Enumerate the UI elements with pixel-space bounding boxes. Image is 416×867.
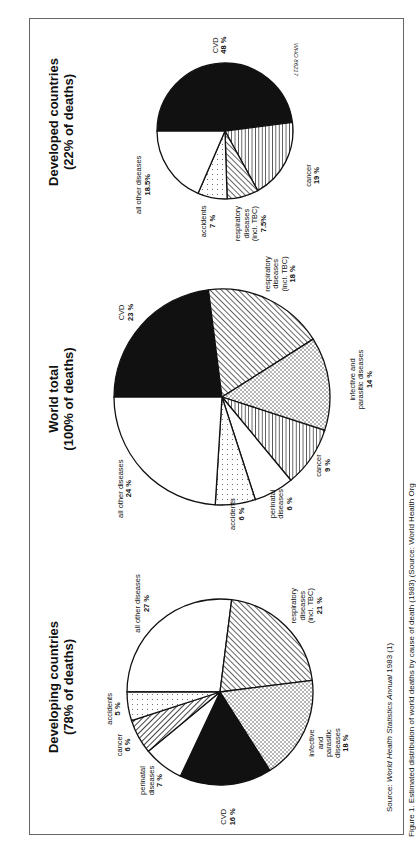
developing-pct-cancer: 6 % xyxy=(123,738,132,751)
developing-pct-acc: 5 % xyxy=(113,702,122,715)
developed-pct-cvd: 48 % xyxy=(219,36,228,53)
world-pct-inf: 14 % xyxy=(365,371,374,388)
developing-title: Developing countries xyxy=(46,621,61,753)
developing-pct-inf: 18 % xyxy=(341,734,350,751)
developing-label-resp: respiratorydiseases(incl. TBC)21 % xyxy=(289,588,324,624)
figure-page: Developing countries (78% of deaths) Wor… xyxy=(0,0,416,867)
developing-label-cvd: CVD16 % xyxy=(219,808,237,825)
source-suffix: 1983 (1) xyxy=(385,643,394,675)
world-label-other: all other diseases24 % xyxy=(116,459,134,518)
world-pct-other: 24 % xyxy=(124,480,133,497)
developed-pct-resp: 7.5% xyxy=(259,215,268,232)
developing-pct-other: 27 % xyxy=(142,595,151,612)
world-label-peri: perinataldiseases6 % xyxy=(268,489,294,519)
developed-pct-cancer: 19 % xyxy=(312,167,321,184)
who-code: WHO 86217 xyxy=(293,43,299,77)
world-pct-resp: 18 % xyxy=(288,265,297,282)
developed-pct-other: 18.5% xyxy=(143,174,152,196)
developing-slice-other xyxy=(127,599,232,692)
developing-label-inf: infectiveandparasiticdiseases18 % xyxy=(307,728,350,758)
developing-label-other: all other diseases27 % xyxy=(133,574,151,633)
world-pct-cvd: 23 % xyxy=(126,304,135,321)
world-subtitle: (100% of deaths) xyxy=(61,347,76,450)
source-title: World Health Statistics Annual xyxy=(385,675,394,783)
world-label-resp: respiratorydiseases(incl. TBC)18 % xyxy=(263,256,298,292)
developed-label-resp: respiratorydiseases(incl. TBC)7.5% xyxy=(233,205,268,241)
world-title: World total xyxy=(46,365,61,433)
developing-pct-peri: 7 % xyxy=(155,774,164,787)
developed-label-acc: accidents7 % xyxy=(199,205,217,237)
developing-label-peri: perinataldiseases7 % xyxy=(138,765,164,795)
developing-label-acc: accidents5 % xyxy=(105,693,123,725)
developed-label-cvd: CVD48 % xyxy=(211,36,229,53)
world-pct-peri: 6 % xyxy=(285,497,294,510)
developing-subtitle: (78% of deaths) xyxy=(61,639,76,735)
world-label-cvd: CVD23 % xyxy=(117,304,135,321)
developed-pct-acc: 7 % xyxy=(208,215,217,228)
developed-label-cancer: cancer19 % xyxy=(304,164,322,187)
figure-caption: Figure 1. Estimated distribution of worl… xyxy=(407,483,416,837)
developed-label-other: all other diseases18.5% xyxy=(134,155,152,214)
developing-pct-cvd: 16 % xyxy=(228,808,237,825)
developing-pct-resp: 21 % xyxy=(315,597,324,614)
world-label-inf: infective andparasitic diseases14 % xyxy=(348,349,374,409)
developed-subtitle: (22% of deaths) xyxy=(61,74,76,170)
source-prefix: Source: xyxy=(385,782,394,812)
developing-label-cancer: cancer6 % xyxy=(115,733,132,756)
world-pct-cancer: 9 % xyxy=(323,459,332,472)
developed-title: Developed countries xyxy=(46,58,61,186)
pies-group xyxy=(114,63,330,785)
world-label-cancer: cancer9 % xyxy=(314,454,332,477)
developed-slice-cvd xyxy=(157,63,292,131)
pie-charts: Developing countries (78% of deaths) Wor… xyxy=(0,0,416,867)
source-note: Source: World Health Statistics Annual 1… xyxy=(385,643,394,812)
world-pct-acc: 6 % xyxy=(237,507,246,520)
